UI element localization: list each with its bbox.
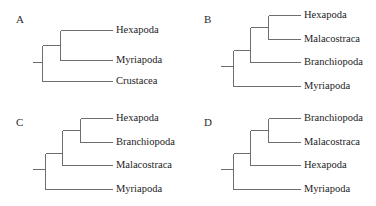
panel-d: DBranchiopodaMalacostracaHexapodaMyriapo… [188,103,376,206]
panel-b: BHexapodaMalacostracaBranchiopodaMyriapo… [188,0,376,103]
tip-label-branchiopoda: Branchiopoda [116,137,175,148]
tip-label-myriapoda: Myriapoda [304,184,350,195]
tip-label-malacostraca: Malacostraca [116,160,172,171]
tree-a [0,0,188,103]
tip-label-crustacea: Crustacea [116,76,157,87]
tip-label-myriapoda: Myriapoda [116,184,162,195]
tip-label-hexapoda: Hexapoda [304,160,347,171]
panel-letter-b: B [204,14,211,25]
tip-label-myriapoda: Myriapoda [116,55,162,66]
tip-label-branchiopoda: Branchiopoda [304,57,363,68]
tip-label-malacostraca: Malacostraca [304,34,360,45]
panel-a: AHexapodaMyriapodaCrustacea [0,0,188,103]
panel-letter-d: D [204,117,212,128]
tip-label-hexapoda: Hexapoda [116,25,159,36]
panel-c: CHexapodaBranchiopodaMalacostracaMyriapo… [0,103,188,206]
tip-label-hexapoda: Hexapoda [116,113,159,124]
cladogram-figure: AHexapodaMyriapodaCrustaceaBHexapodaMala… [0,0,376,206]
panel-letter-a: A [16,14,24,25]
tip-label-myriapoda: Myriapoda [304,81,350,92]
tip-label-hexapoda: Hexapoda [304,10,347,21]
panel-letter-c: C [16,117,23,128]
tip-label-branchiopoda: Branchiopoda [304,113,363,124]
tip-label-malacostraca: Malacostraca [304,137,360,148]
